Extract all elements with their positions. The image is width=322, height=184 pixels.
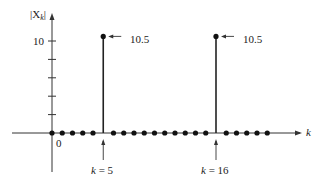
stem-dot (183, 130, 188, 135)
stem-dot (70, 130, 75, 135)
x-axis-label: k (306, 127, 311, 138)
marker-k16-eq: = 16 (206, 164, 229, 176)
stem-dot (172, 130, 177, 135)
stem-dot (224, 130, 229, 135)
stem-dot (203, 130, 208, 135)
stem-dot (254, 130, 259, 135)
y-axis-label: |Xk| (30, 9, 46, 22)
y-axis-label-close: | (44, 8, 46, 20)
marker-k5-eq: = 5 (96, 164, 113, 176)
stem-dot (244, 130, 249, 135)
marker-label-k5: k = 5 (91, 165, 113, 176)
stem-dot (152, 130, 157, 135)
marker-label-k16: k = 16 (201, 165, 229, 176)
stem-dot (80, 130, 85, 135)
y-tick-label-10: 10 (33, 36, 44, 47)
arrow-head-icon (101, 139, 105, 145)
stem-dot (234, 130, 239, 135)
stem-dot (101, 34, 106, 39)
stem-dot (60, 130, 65, 135)
arrow-head-icon (108, 34, 113, 38)
y-axis-arrow-icon (50, 13, 55, 20)
peak-label-k16: 10.5 (243, 34, 262, 45)
stem-dot (90, 130, 95, 135)
stems (49, 34, 269, 136)
stem-dot (162, 130, 167, 135)
arrow-head-icon (221, 34, 226, 38)
stem-dot (111, 130, 116, 135)
stem-dot (49, 130, 54, 135)
peak-label-k5: 10.5 (130, 34, 149, 45)
stem-dot (131, 130, 136, 135)
stem-dot (121, 130, 126, 135)
x-axis-arrow-icon (295, 131, 302, 136)
arrow-head-icon (214, 139, 218, 145)
stem-dot (142, 130, 147, 135)
stem-dot (265, 130, 270, 135)
origin-label: 0 (56, 138, 62, 149)
y-axis-label-text: |X (30, 8, 40, 20)
stem-dot (193, 130, 198, 135)
stem-dot (213, 34, 218, 39)
annotations (101, 34, 234, 160)
stem-plot (0, 0, 322, 184)
